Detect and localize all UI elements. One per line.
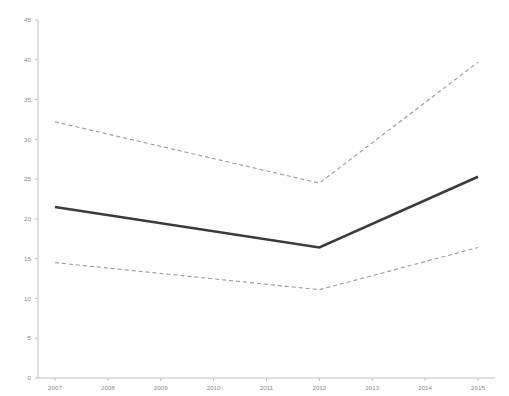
x-tick-label: 2013: [365, 384, 379, 391]
x-tick-label: 2014: [418, 384, 432, 391]
x-axis: 200720082009201020112012201320142015: [38, 378, 495, 391]
x-tick-label: 2011: [260, 384, 274, 391]
series-line-lower-confidence-limit: [55, 248, 478, 290]
y-tick-label: 5: [28, 334, 32, 341]
x-tick-label: 2007: [48, 384, 62, 391]
y-axis: 051015202530354045: [24, 16, 38, 381]
x-tick-label: 2015: [471, 384, 485, 391]
y-tick-label: 35: [24, 96, 31, 103]
y-tick-label: 25: [24, 175, 31, 182]
y-tick-label: 45: [24, 16, 31, 23]
series-line-upper-confidence-limit: [55, 62, 478, 183]
x-tick-label: 2012: [312, 384, 326, 391]
x-tick-label: 2010: [207, 384, 221, 391]
line-chart: 051015202530354045 200720082009201020112…: [0, 0, 509, 396]
plot-area: 051015202530354045 200720082009201020112…: [0, 0, 509, 396]
y-tick-label: 15: [24, 255, 31, 262]
x-tick-label: 2008: [101, 384, 115, 391]
y-tick-label: 30: [24, 136, 31, 143]
y-tick-label: 40: [24, 56, 31, 63]
x-tick-label: 2009: [154, 384, 168, 391]
y-tick-label: 10: [24, 295, 31, 302]
series-group: [55, 62, 478, 290]
series-line-fitted-trend: [55, 177, 478, 248]
y-tick-label: 0: [28, 374, 32, 381]
y-tick-label: 20: [24, 215, 31, 222]
